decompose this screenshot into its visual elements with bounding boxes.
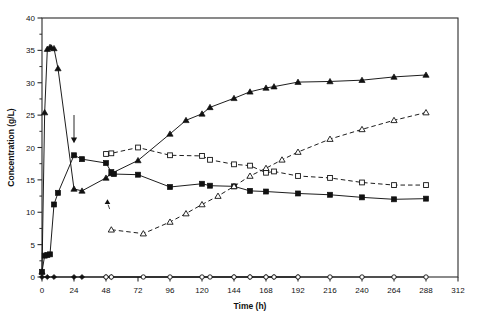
marker-circle-open [208, 275, 212, 279]
marker-triangle-filled [183, 117, 189, 122]
y-axis-title: Concentration (g/L) [6, 108, 16, 187]
plot-frame [42, 18, 458, 277]
marker-square-filled [296, 191, 301, 196]
marker-square-filled [80, 157, 85, 162]
y-tick-label: 5 [31, 241, 36, 250]
marker-circle-open [272, 275, 276, 279]
marker-square-filled [40, 269, 45, 274]
y-tick-label: 10 [26, 208, 35, 217]
marker-square-filled [360, 195, 365, 200]
marker-circle-open [200, 275, 204, 279]
x-tick-label: 72 [134, 286, 143, 295]
x-tick-label: 0 [40, 286, 45, 295]
series-filled-triangle [39, 44, 429, 274]
marker-square-open [109, 151, 114, 156]
x-tick-label: 120 [195, 286, 209, 295]
marker-triangle-open [247, 173, 253, 178]
marker-square-open [392, 183, 397, 188]
marker-square-filled [52, 202, 57, 207]
marker-square-open [328, 176, 333, 181]
x-tick-label: 24 [70, 286, 79, 295]
marker-circle-open [168, 275, 172, 279]
marker-diamond-filled [79, 274, 84, 279]
series-line [42, 47, 426, 272]
marker-square-filled [424, 196, 429, 201]
marker-triangle-filled [423, 72, 429, 77]
marker-circle-open [296, 275, 300, 279]
annotation-downward-arrow-marker [71, 115, 77, 143]
marker-circle-open [264, 275, 268, 279]
marker-triangle-open [423, 110, 429, 115]
annotation-leader-line-open-triangle [105, 199, 111, 209]
marker-circle-open [424, 275, 428, 279]
series-baseline-open-circle [104, 275, 428, 279]
marker-circle-open [360, 275, 364, 279]
marker-square-filled [56, 190, 61, 195]
marker-square-open [248, 163, 253, 168]
marker-square-filled [72, 153, 77, 158]
y-tick-label: 30 [26, 79, 35, 88]
marker-square-open [232, 162, 237, 167]
marker-circle-open [392, 275, 396, 279]
x-tick-label: 48 [102, 286, 111, 295]
chart-plot: 0510152025303540024487296120144168192216… [0, 0, 483, 318]
marker-square-open [200, 154, 205, 159]
marker-square-filled [208, 183, 213, 188]
marker-square-open [136, 145, 141, 150]
marker-square-open [360, 180, 365, 185]
series-line [42, 155, 426, 272]
marker-circle-open [141, 275, 145, 279]
marker-square-filled [48, 252, 53, 257]
x-tick-label: 264 [387, 286, 401, 295]
leader-tick-icon [105, 199, 111, 204]
marker-triangle-open [167, 219, 173, 224]
y-tick-label: 40 [26, 14, 35, 23]
x-tick-label: 240 [355, 286, 369, 295]
marker-square-filled [392, 197, 397, 202]
leader-line [108, 205, 110, 209]
marker-circle-open [232, 275, 236, 279]
y-tick-label: 15 [26, 176, 35, 185]
x-tick-label: 96 [166, 286, 175, 295]
marker-square-filled [264, 189, 269, 194]
marker-square-filled [136, 172, 141, 177]
marker-triangle-open [183, 211, 189, 216]
figure-container: 0510152025303540024487296120144168192216… [0, 0, 483, 318]
marker-triangle-filled [55, 66, 61, 71]
marker-diamond-filled [45, 274, 50, 279]
marker-diamond-filled [51, 274, 56, 279]
marker-triangle-open [199, 201, 205, 206]
series-filled-square [40, 153, 429, 275]
marker-square-filled [168, 184, 173, 189]
marker-square-filled [112, 172, 117, 177]
marker-square-open [296, 174, 301, 179]
marker-square-filled [104, 161, 109, 166]
marker-square-open [104, 152, 109, 157]
marker-triangle-open [279, 157, 285, 162]
y-tick-label: 0 [31, 273, 36, 282]
marker-triangle-open [263, 165, 269, 170]
marker-square-filled [200, 181, 205, 186]
marker-square-open [208, 157, 213, 162]
y-tick-label: 25 [26, 111, 35, 120]
y-tick-label: 20 [26, 144, 35, 153]
marker-square-open [264, 170, 269, 175]
x-tick-label: 168 [259, 286, 273, 295]
marker-diamond-filled [71, 274, 76, 279]
y-tick-label: 35 [26, 46, 35, 55]
marker-circle-open [328, 275, 332, 279]
marker-triangle-open [295, 149, 301, 154]
x-tick-label: 312 [451, 286, 465, 295]
x-tick-label: 144 [227, 286, 241, 295]
marker-square-open [168, 153, 173, 158]
marker-circle-open [248, 275, 252, 279]
x-tick-label: 216 [323, 286, 337, 295]
marker-triangle-open [108, 227, 114, 232]
x-axis-title: Time (h) [234, 301, 267, 311]
marker-triangle-filled [71, 186, 77, 191]
marker-square-filled [248, 188, 253, 193]
marker-triangle-open [359, 126, 365, 131]
marker-triangle-open [215, 193, 221, 198]
marker-square-filled [328, 192, 333, 197]
marker-square-open [272, 169, 277, 174]
